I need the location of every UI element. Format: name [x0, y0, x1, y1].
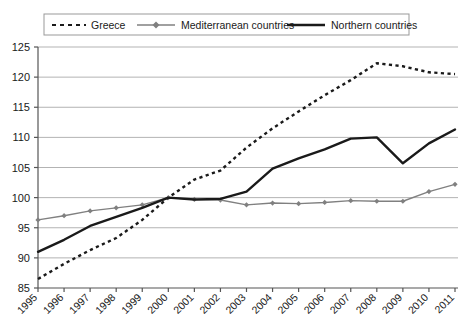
y-tick-label: 105: [12, 162, 30, 174]
chart-container: Greece Mediterranean countries Northern …: [0, 0, 473, 329]
line-chart: Greece Mediterranean countries Northern …: [0, 0, 473, 329]
chart-background: [0, 0, 473, 329]
chart-legend: Greece Mediterranean countries Northern …: [44, 14, 417, 35]
y-tick-label: 100: [12, 192, 30, 204]
y-tick-label: 115: [12, 101, 30, 113]
legend-label-mediterranean: Mediterranean countries: [181, 19, 294, 31]
y-tick-label: 120: [12, 71, 30, 83]
y-tick-label: 125: [12, 41, 30, 53]
y-tick-label: 85: [18, 282, 30, 294]
legend-label-greece: Greece: [91, 19, 126, 31]
y-tick-label: 95: [18, 222, 30, 234]
legend-label-northern: Northern countries: [331, 19, 417, 31]
y-tick-label: 90: [18, 252, 30, 264]
y-tick-label: 110: [12, 131, 30, 143]
